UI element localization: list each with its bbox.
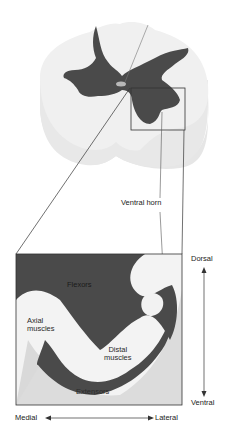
label-extensors: Extensors (76, 388, 109, 396)
label-distal-line2: muscles (104, 354, 132, 362)
label-ventral: Ventral (191, 399, 214, 407)
label-axial-line2: muscles (27, 325, 55, 333)
central-canal (116, 82, 126, 87)
label-medial: Medial (15, 414, 37, 422)
label-lateral: Lateral (155, 414, 178, 422)
label-ventral-horn: Ventral horn (121, 199, 161, 207)
dorsal-ventral-arrow (202, 267, 207, 397)
label-axial-muscles: Axial muscles (27, 317, 55, 333)
spinal-cord-diagram (0, 0, 230, 431)
label-dorsal: Dorsal (191, 255, 213, 263)
label-distal-muscles: Distal muscles (104, 346, 132, 362)
spinal-cord-cross-section (40, 22, 208, 169)
label-flexors: Flexors (67, 281, 92, 289)
medial-lateral-arrow (45, 416, 154, 421)
